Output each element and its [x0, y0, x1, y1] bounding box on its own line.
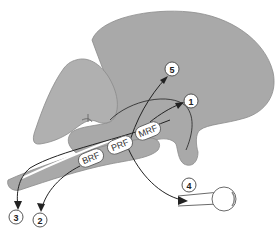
target-2-label: 2: [37, 216, 42, 226]
arrowhead-4: [178, 196, 188, 205]
arrowhead-3: [14, 201, 22, 210]
target-4-label: 4: [186, 181, 191, 191]
target-3: 3: [9, 210, 23, 224]
target-2: 2: [33, 213, 47, 227]
target-1-label: 1: [188, 97, 193, 107]
target-1: 1: [184, 94, 198, 108]
target-5-label: 5: [169, 65, 174, 75]
target-5: 5: [165, 62, 179, 76]
target-3-label: 3: [13, 213, 18, 223]
target-4: 4: [182, 178, 196, 192]
eye-globe: [212, 187, 236, 211]
arrowhead-2: [37, 203, 45, 212]
diagram-canvas: BRF PRF MRF 1 5 4 3 2: [0, 0, 278, 241]
